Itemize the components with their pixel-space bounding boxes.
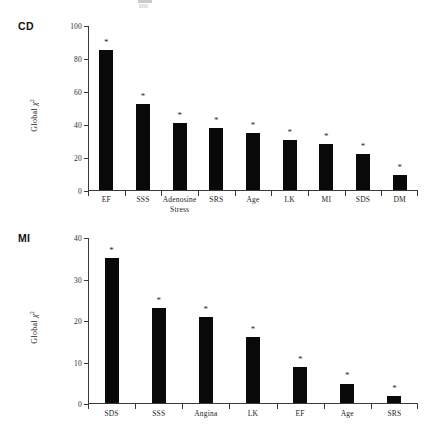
x-axis-label-line: LK [248,409,258,418]
chi-exponent: 2 [29,311,35,314]
panel-mi: MI Global χ2 010203040******* SDSSSSAngi… [0,210,426,441]
significance-marker-srs: * [392,384,397,393]
x-tick-4 [277,404,278,409]
chi-symbol: χ [30,102,39,106]
x-tick-1 [135,404,136,409]
y-tick-label-30: 30 [74,275,82,284]
x-axis-label-line: SDS [356,195,370,204]
bar-srs [209,128,223,190]
bar-sss [136,104,150,190]
significance-marker-age: * [345,371,350,380]
y-tick-label-80: 80 [74,55,82,64]
significance-marker-sds: * [109,246,114,255]
bar-adenosine-stress [173,123,187,190]
y-tick-label-100: 100 [70,22,82,31]
x-axis-label-srs: SRS [209,195,223,204]
x-tick-5 [324,404,325,409]
y-tick-10 [84,363,88,364]
x-axis-label-ef: EF [102,195,111,204]
bar-dm [393,175,407,190]
bar-lk [283,140,297,190]
y-tick-40 [84,238,88,239]
x-tick-4 [235,191,236,196]
significance-marker-srs: * [214,116,219,125]
x-tick-3 [198,191,199,196]
x-axis-label-ef: EF [296,409,305,418]
y-tick-label-0: 0 [78,400,82,409]
significance-marker-sss: * [156,296,161,305]
x-tick-7 [345,191,346,196]
bar-mi [319,144,333,190]
y-tick-label-20: 20 [74,317,82,326]
plot-area-mi: 010203040******* [88,238,418,404]
significance-marker-mi: * [324,132,329,141]
y-tick-label-60: 60 [74,88,82,97]
bar-age [340,384,354,404]
chi-exponent: 2 [29,99,35,102]
y-tick-label-40: 40 [74,234,82,243]
x-tick-5 [271,191,272,196]
x-axis-label-line: Age [341,409,354,418]
x-axis-label-line: SSS [152,409,165,418]
x-axis-label-line: LK [284,195,294,204]
y-tick-20 [84,321,88,322]
x-axis-label-line: EF [102,195,111,204]
x-axis-label-mi: MI [322,195,332,204]
x-tick-9 [417,191,418,196]
bar-srs [387,396,401,403]
figure-root: CD Global χ2 020406080100********* EFSSS… [0,0,426,441]
bar-sds [105,258,119,403]
significance-marker-age: * [251,121,256,130]
y-tick-label-20: 20 [74,154,82,163]
x-axis-label-sss: SSS [136,195,149,204]
x-axis-label-angina: Angina [194,409,217,418]
x-axis-label-sds: SDS [104,409,118,418]
y-axis-line-mi [88,238,89,404]
x-tick-3 [229,404,230,409]
bar-ef [99,50,113,190]
y-tick-30 [84,280,88,281]
significance-marker-ef: * [104,38,109,47]
y-tick-80 [84,59,88,60]
x-tick-6 [308,191,309,196]
y-tick-label-0: 0 [78,187,82,196]
x-axis-label-line: MI [322,195,332,204]
x-axis-label-line: DM [393,195,406,204]
bar-sss [152,308,166,403]
x-tick-0 [88,404,89,409]
x-axis-label-line: SDS [104,409,118,418]
x-axis-label-srs: SRS [387,409,401,418]
chi-symbol: χ [30,314,39,318]
y-tick-100 [84,26,88,27]
x-tick-1 [125,191,126,196]
y-axis-label-text: Global [30,318,39,344]
significance-marker-dm: * [397,163,402,172]
x-axis-label-lk: LK [284,195,294,204]
bar-age [246,133,260,190]
x-axis-label-line: Age [246,195,259,204]
panel-cd: CD Global χ2 020406080100********* EFSSS… [0,0,426,220]
x-axis-label-line: EF [296,409,305,418]
significance-marker-lk: * [251,325,256,334]
significance-marker-lk: * [287,128,292,137]
bar-sds [356,154,370,190]
x-tick-6 [371,404,372,409]
y-axis-label-cd: Global χ2 [29,80,40,150]
y-axis-label-mi: Global χ2 [29,292,40,362]
x-axis-label-dm: DM [393,195,406,204]
x-axis-line-cd [88,190,418,191]
significance-marker-sss: * [141,92,146,101]
y-axis-line-cd [88,26,89,191]
x-tick-2 [182,404,183,409]
y-tick-20 [84,158,88,159]
y-tick-label-10: 10 [74,358,82,367]
x-axis-line-mi [88,403,418,404]
x-axis-label-sds: SDS [356,195,370,204]
x-tick-0 [88,191,89,196]
plot-area-cd: 020406080100********* [88,26,418,191]
x-axis-label-line: SRS [209,195,223,204]
x-axis-label-age: Age [246,195,259,204]
x-axis-label-age: Age [341,409,354,418]
x-tick-7 [417,404,418,409]
y-tick-60 [84,92,88,93]
